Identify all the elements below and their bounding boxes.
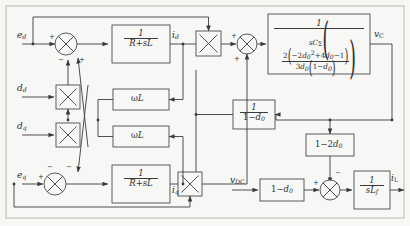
input-dq-sub: q (23, 124, 27, 131)
dc-link-sC-text: sC (309, 38, 318, 47)
sum-dc-sign-left: + (231, 33, 237, 40)
feedback-gain-expression: 1 1−d0 (240, 103, 268, 123)
sum-q-sign-left: + (38, 174, 44, 181)
junction-dot-iq (182, 183, 185, 186)
fb-den-sub: 0 (261, 115, 265, 122)
junction-dot-id (182, 43, 185, 46)
plant-q-expression: 1 R+sL (124, 169, 158, 188)
plant-q-den-op: + (136, 178, 143, 188)
fb-den-minus: − (248, 112, 255, 122)
coupling-bottom-omega: ω (131, 130, 138, 140)
coupling-bottom-L: L (138, 130, 144, 140)
signal-iL-sub: L (394, 176, 398, 183)
dcg-minus: − (276, 184, 283, 194)
duty-gain-label: 1−2d0 (315, 140, 342, 149)
inner-den-close-paren: ) (332, 57, 336, 78)
plant-q-den-b: sL (143, 178, 153, 188)
sum-q-sign-top-right: − (66, 164, 72, 171)
junction-dot-topbus (32, 43, 35, 46)
dc-link-open-paren: ( (322, 15, 329, 63)
input-label-dq: dq (17, 122, 27, 131)
dc-link-inner-denominator: 3d0(1−d0) (282, 62, 349, 73)
plant-d-denominator: R+sL (124, 39, 158, 48)
plant-d-den-op: + (136, 38, 143, 48)
signal-id-sub: d (175, 33, 179, 40)
input-label-eq: eq (17, 171, 26, 180)
sum-load-sign-top: − (335, 170, 341, 177)
junction-dot-fb (195, 113, 198, 116)
dc-link-numerator: 1 (274, 19, 364, 29)
signal-label-iq: iq (172, 186, 179, 195)
filt-sub: f (376, 188, 378, 195)
input-vdc-sub: DC (235, 178, 245, 185)
coupling-gain-top-label: ωL (131, 94, 144, 103)
feedback-gain-denominator: 1−d0 (240, 113, 268, 123)
junction-dot-bottombus (13, 183, 16, 186)
junction-dot-duty (329, 119, 332, 122)
duty-sub: 0 (338, 142, 342, 149)
input-label-vdc: vDC (230, 176, 245, 185)
dc-link-close-paren: ) (349, 34, 356, 82)
coupling-top-L: L (138, 93, 144, 103)
coupling-top-omega: ω (131, 93, 138, 103)
inner-num-close-paren: ) (344, 45, 348, 66)
inner-den-open-paren: ( (309, 57, 313, 78)
input-label-ed: ed (17, 31, 26, 40)
junction-dot-coupling (97, 119, 100, 122)
dc-link-sC: sCΣ (309, 39, 323, 48)
input-eq-sub: q (22, 173, 26, 180)
sum-q-sign-top-left: − (47, 164, 53, 171)
input-ed-sub: d (22, 33, 26, 40)
sum-load-sign-left: + (313, 180, 319, 187)
duty-minus: − (320, 139, 327, 149)
filter-inductor-expression: 1 sLf (360, 176, 384, 196)
inner-num-t1: −2 (292, 51, 303, 60)
sum-dc-sign-bottom: + (234, 56, 240, 63)
signal-label-iL: iL (391, 174, 398, 183)
signal-label-id: id (172, 31, 179, 40)
sum-d-sign-bottom-right: + (79, 57, 85, 64)
dcg-sub: 0 (289, 187, 293, 194)
input-label-dd: dd (17, 84, 27, 93)
coupling-gain-bottom-label: ωL (131, 131, 144, 140)
sum-d-sign-left: + (49, 34, 55, 41)
plant-d-expression: 1 R+sL (124, 29, 158, 48)
dc-link-inner-numerator: 2(−2d02+4d0−1) (282, 50, 349, 63)
dc-link-inner-fraction: 2(−2d02+4d0−1)3d0(1−d0) (282, 50, 349, 74)
junction-dot-muldd-feed (67, 119, 70, 122)
block-diagram-canvas: ed dd dq eq vDC id iq vC iL 1 R+sL 1 R+s… (0, 0, 410, 226)
signal-vc-sub: C (379, 32, 384, 39)
junction-dot-vc (391, 119, 394, 122)
signal-label-vc: vC (374, 30, 384, 39)
sum-d-sign-bottom-left: − (58, 57, 64, 64)
plant-d-den-b: sL (143, 38, 153, 48)
dc-link-expression: 1 sCΣ(2(−2d02+4d0−1)3d0(1−d0)) (274, 19, 364, 74)
dc-source-gain-label: 1−d0 (271, 185, 293, 194)
inner-num-open-paren: ( (288, 45, 292, 66)
signal-iq-sub: q (175, 188, 179, 195)
dc-link-denominator: sCΣ(2(−2d02+4d0−1)3d0(1−d0)) (274, 29, 364, 73)
filter-denominator: sLf (360, 186, 384, 196)
plant-q-denominator: R+sL (124, 179, 158, 188)
input-dd-sub: d (23, 86, 27, 93)
